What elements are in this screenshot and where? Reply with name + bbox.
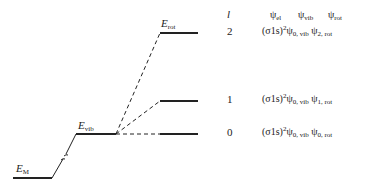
axis-break-mark — [61, 155, 68, 160]
column-header-psi-el: ψel — [270, 9, 281, 22]
connector-em-vib-lower — [52, 159, 63, 178]
connector-em-vib-upper — [66, 134, 76, 154]
label-evib: Evib — [78, 119, 94, 133]
column-header-psi-vib: ψvib — [298, 9, 313, 22]
row-wavefunction: (σ1s)2ψ0, vib ψ1, rot — [262, 92, 332, 106]
row-wavefunction: (σ1s)2ψ0, vib ψ2, rot — [262, 24, 332, 38]
label-erot: Erot — [161, 17, 176, 31]
row-l-value: 0 — [227, 126, 233, 138]
column-header-psi-rot: ψrot — [328, 9, 342, 22]
dashed-to-l1 — [116, 101, 160, 134]
row-wavefunction: (σ1s)2ψ0, vib ψ0, rot — [262, 125, 332, 139]
row-l-value: 1 — [227, 93, 233, 105]
dashed-to-l2 — [116, 33, 160, 134]
label-em: EM — [16, 162, 29, 176]
column-header-l: l — [227, 8, 230, 20]
row-l-value: 2 — [227, 25, 233, 37]
